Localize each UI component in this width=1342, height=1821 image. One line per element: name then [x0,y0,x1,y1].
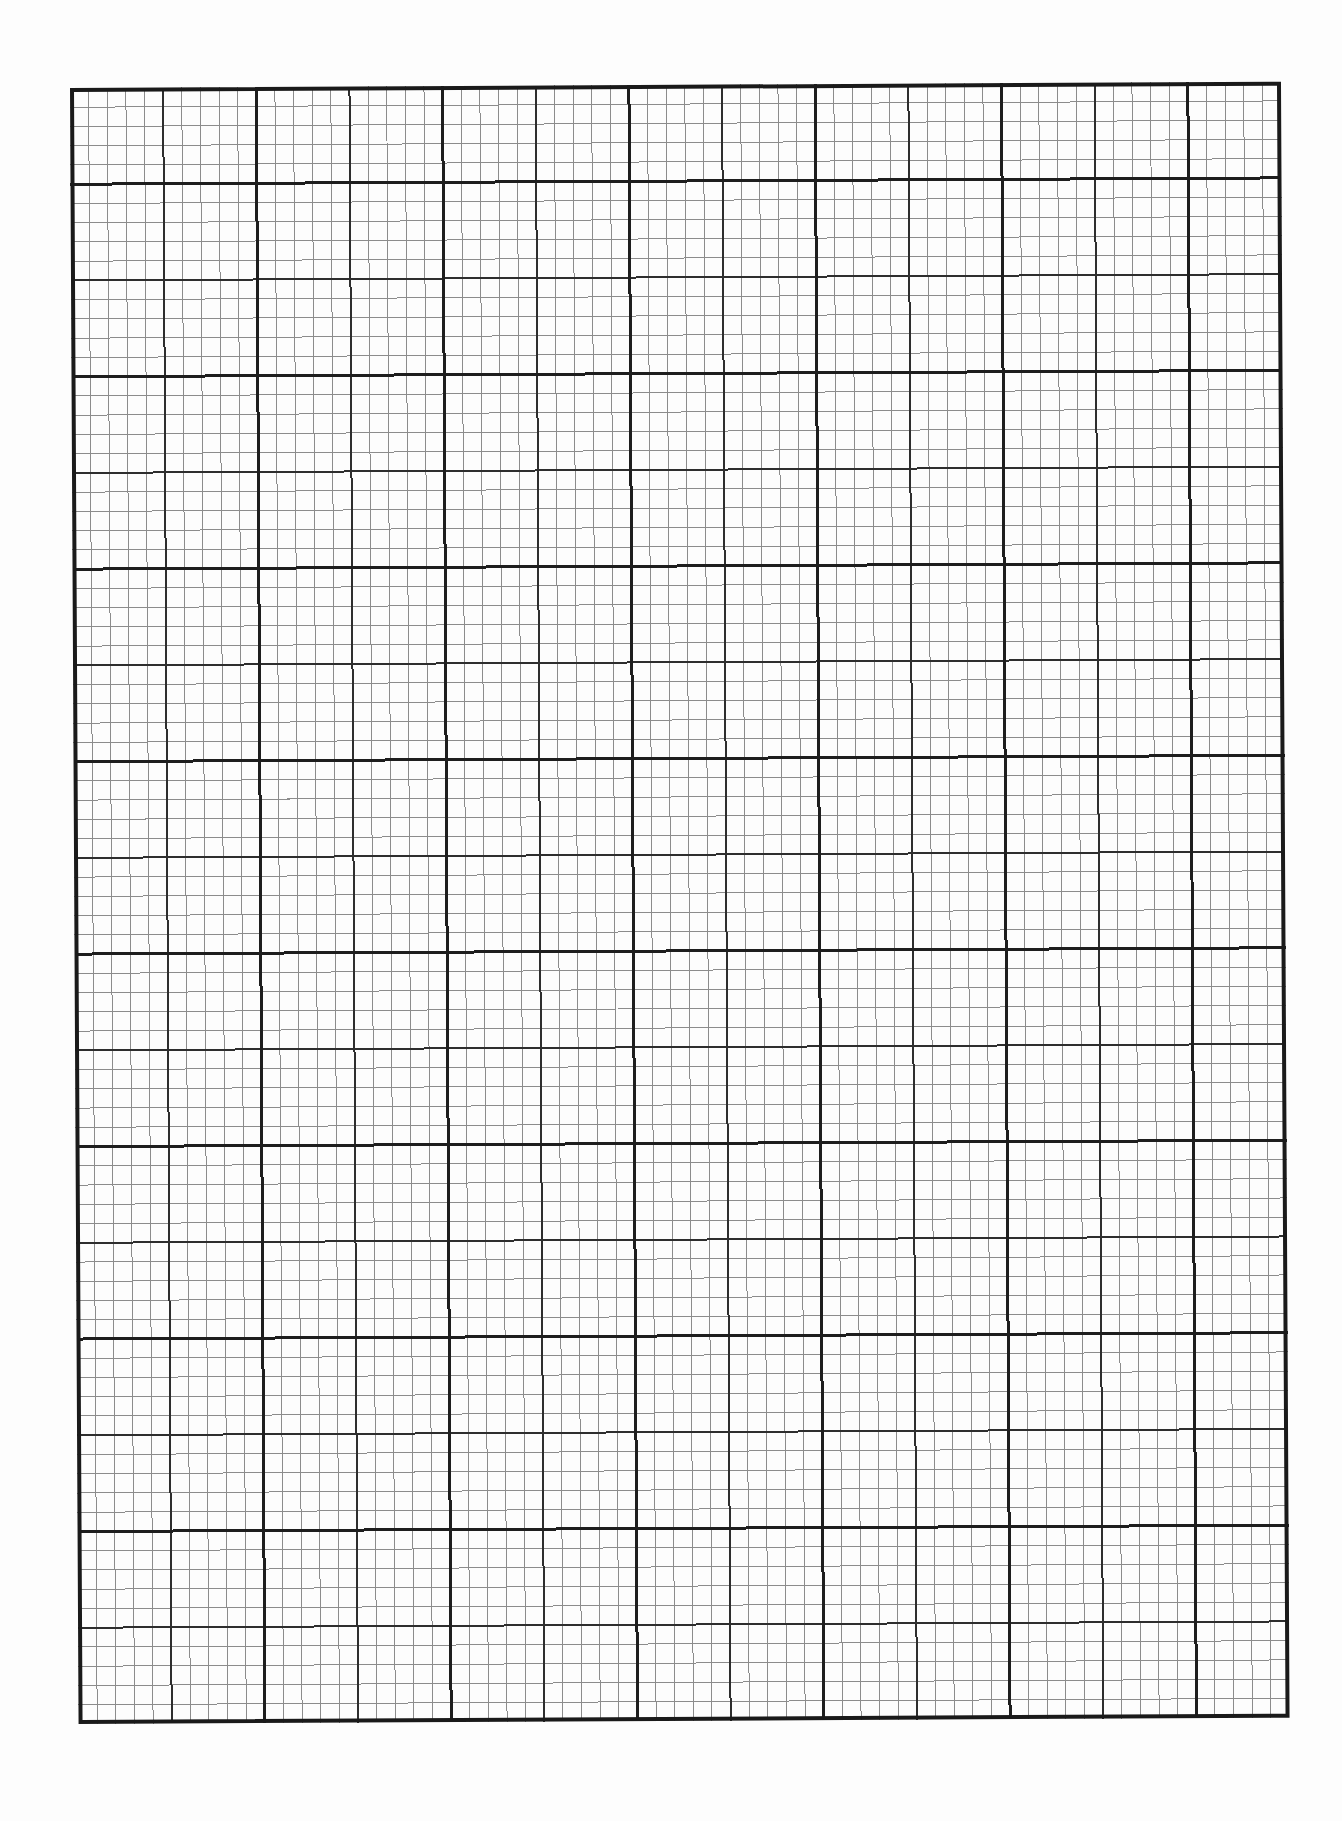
minor-horizontal-line [71,216,1282,222]
minor-vertical-line [1057,83,1066,1719]
thick-vertical-line [629,85,638,1721]
thick-horizontal-line [76,1140,1287,1146]
minor-horizontal-line [70,101,1281,107]
minor-vertical-line [927,84,936,1720]
minor-horizontal-line [70,120,1281,126]
minor-horizontal-line [75,1006,1286,1012]
minor-vertical-line [182,87,191,1723]
minor-vertical-line [703,85,712,1721]
minor-horizontal-line [71,313,1282,319]
graph-paper-sheet [0,0,1342,1821]
minor-vertical-line [685,85,694,1721]
minor-horizontal-line [75,967,1286,973]
minor-vertical-line [107,88,116,1724]
minor-horizontal-line [77,1487,1288,1493]
minor-horizontal-line [76,1294,1287,1300]
minor-horizontal-line [75,1102,1286,1108]
minor-vertical-line [424,86,433,1722]
medium-vertical-line [1095,83,1104,1719]
minor-horizontal-line [70,139,1281,145]
minor-horizontal-line [77,1410,1288,1416]
minor-horizontal-line [77,1390,1288,1396]
minor-horizontal-line [74,929,1285,935]
minor-vertical-line [983,83,992,1719]
thick-vertical-line [256,87,265,1723]
minor-vertical-line [592,85,601,1721]
medium-horizontal-line [77,1429,1288,1435]
minor-vertical-line [1206,82,1215,1718]
minor-vertical-line [145,88,154,1724]
minor-horizontal-line [78,1660,1289,1666]
minor-horizontal-line [78,1564,1289,1570]
minor-horizontal-line [77,1467,1288,1473]
minor-horizontal-line [73,640,1284,646]
minor-horizontal-line [73,698,1284,704]
minor-horizontal-line [72,409,1283,415]
minor-vertical-line [126,88,135,1724]
thick-horizontal-line [71,178,1282,184]
minor-vertical-line [499,86,508,1722]
medium-horizontal-line [73,659,1284,665]
medium-vertical-line [349,87,358,1723]
medium-horizontal-line [76,1236,1287,1242]
medium-horizontal-line [72,467,1283,473]
minor-horizontal-line [78,1544,1289,1550]
minor-vertical-line [1039,83,1048,1719]
minor-horizontal-line [77,1352,1288,1358]
minor-horizontal-line [73,582,1284,588]
thick-vertical-line [1188,82,1197,1718]
medium-horizontal-line [74,852,1285,858]
minor-horizontal-line [74,794,1285,800]
minor-horizontal-line [72,390,1283,396]
minor-horizontal-line [73,621,1284,627]
thick-horizontal-line [72,370,1283,376]
minor-vertical-line [1169,82,1178,1718]
minor-vertical-line [1020,83,1029,1719]
minor-vertical-line [890,84,899,1720]
medium-vertical-line [536,86,545,1722]
minor-vertical-line [871,84,880,1720]
minor-horizontal-line [76,1217,1287,1223]
grid-lines [70,82,1290,1724]
minor-horizontal-line [76,1256,1287,1262]
minor-vertical-line [1225,82,1234,1718]
minor-horizontal-line [74,890,1285,896]
minor-vertical-line [648,85,657,1721]
minor-horizontal-line [77,1448,1288,1454]
medium-vertical-line [722,85,731,1721]
minor-vertical-line [312,87,321,1723]
minor-horizontal-line [73,736,1284,742]
minor-vertical-line [1262,82,1271,1718]
minor-vertical-line [741,84,750,1720]
minor-horizontal-line [76,1179,1287,1185]
minor-horizontal-line [72,447,1283,453]
minor-vertical-line [405,86,414,1722]
minor-vertical-line [331,87,340,1723]
thick-vertical-line [815,84,824,1720]
minor-vertical-line [238,87,247,1723]
minor-horizontal-line [74,832,1285,838]
grid [70,82,1290,1724]
minor-horizontal-line [78,1583,1289,1589]
minor-horizontal-line [76,1198,1287,1204]
minor-vertical-line [89,88,98,1724]
medium-horizontal-line [71,274,1282,280]
minor-horizontal-line [72,486,1283,492]
minor-horizontal-line [72,505,1283,511]
minor-horizontal-line [77,1506,1288,1512]
minor-horizontal-line [73,678,1284,684]
minor-vertical-line [1113,83,1122,1719]
minor-vertical-line [480,86,489,1722]
minor-vertical-line [778,84,787,1720]
minor-vertical-line [610,85,619,1721]
minor-horizontal-line [74,909,1285,915]
minor-vertical-line [852,84,861,1720]
thick-horizontal-line [75,948,1286,954]
minor-horizontal-line [76,1159,1287,1165]
minor-horizontal-line [73,601,1284,607]
minor-horizontal-line [75,1121,1286,1127]
thick-horizontal-line [77,1333,1288,1339]
minor-vertical-line [946,83,955,1719]
minor-vertical-line [387,86,396,1722]
medium-vertical-line [163,88,172,1724]
